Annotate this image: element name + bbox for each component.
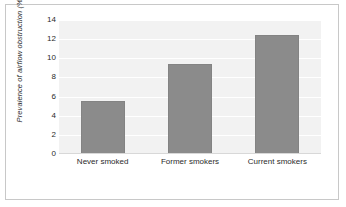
x-axis-category-label: Former smokers (161, 157, 219, 166)
bar (255, 35, 299, 154)
y-axis-tick-label: 2 (52, 131, 56, 139)
y-axis-tick-label: 6 (52, 93, 56, 101)
x-axis-category-labels: Never smokedFormer smokersCurrent smoker… (59, 157, 321, 173)
chart-figure-frame: Prevalence of airflow obstruction (%) 14… (5, 4, 339, 200)
x-axis-category-label: Never smoked (77, 157, 129, 166)
plot-area (59, 20, 321, 154)
y-axis-tick-label: 14 (47, 16, 56, 24)
y-axis-tick-label: 10 (47, 54, 56, 62)
y-axis-title: Prevalence of airflow obstruction (%) (15, 0, 24, 125)
bars-layer (59, 20, 321, 154)
y-axis-tick-labels: 14121086420 (28, 20, 56, 154)
x-axis-baseline (59, 153, 321, 154)
y-axis-tick-label: 8 (52, 73, 56, 81)
chart-plot-wrapper: Prevalence of airflow obstruction (%) 14… (6, 5, 338, 199)
y-axis-tick-label: 0 (52, 150, 56, 158)
bar (81, 101, 125, 154)
x-axis-category-label: Current smokers (248, 157, 307, 166)
y-axis-tick-label: 4 (52, 112, 56, 120)
y-axis-tick-label: 12 (47, 35, 56, 43)
bar (168, 64, 212, 154)
